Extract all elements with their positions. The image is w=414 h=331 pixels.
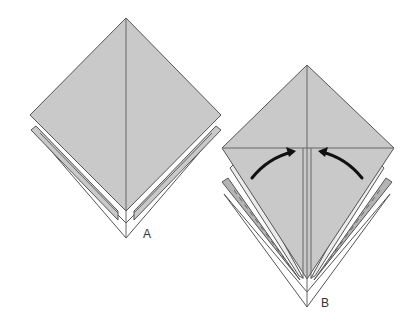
origami-diagram xyxy=(0,0,414,331)
front-kite xyxy=(222,65,394,279)
figure-label-a: A xyxy=(143,228,151,240)
figure-label-b: B xyxy=(321,297,329,309)
figure-b xyxy=(222,65,394,307)
figure-a xyxy=(30,18,221,238)
